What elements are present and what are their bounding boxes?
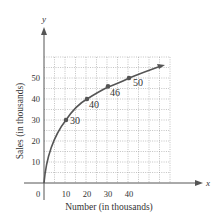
y-tick: 20 (32, 136, 41, 146)
x-tick: 30 (104, 189, 113, 199)
chart: x y 0 10 20 30 40 10 20 30 40 50 Number … (0, 0, 215, 218)
y-tick: 10 (32, 157, 41, 167)
sales-curve (44, 66, 161, 183)
y-axis-label: Sales (in thousands) (15, 83, 26, 160)
data-point (127, 76, 132, 81)
point-label: 30 (70, 115, 80, 126)
x-axis-name: x (205, 178, 210, 188)
y-tick: 40 (32, 94, 41, 104)
data-point (64, 118, 69, 123)
axes (24, 30, 200, 200)
y-axis-arrow-icon (41, 27, 47, 35)
x-axis-arrow-icon (195, 180, 203, 186)
y-axis-name: y (41, 14, 46, 24)
grid (44, 57, 170, 183)
x-tick-labels: 10 20 30 40 (62, 189, 134, 199)
point-label: 40 (89, 99, 99, 110)
x-axis-label: Number (in thousands) (65, 202, 153, 213)
point-label: 50 (133, 77, 143, 88)
point-labels: 30 40 46 50 (70, 77, 143, 126)
origin-label: 0 (36, 189, 40, 199)
y-tick: 50 (32, 73, 41, 83)
y-tick-labels: 10 20 30 40 50 (32, 73, 41, 167)
point-label: 46 (110, 87, 120, 98)
x-tick: 10 (62, 189, 71, 199)
curve-arrow-icon (157, 64, 165, 69)
x-tick: 40 (125, 189, 134, 199)
x-tick: 20 (83, 189, 92, 199)
y-tick: 30 (32, 115, 41, 125)
